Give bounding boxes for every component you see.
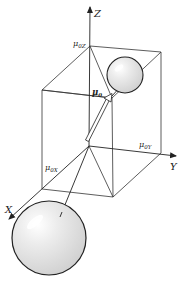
mu-y-label: μ0Y <box>139 140 153 150</box>
box-edge-bottom-right <box>113 153 161 197</box>
x-axis-label: X <box>4 204 13 215</box>
y-axis-label: Y <box>170 161 178 172</box>
z-axis-label: Z <box>93 8 102 19</box>
dipole-moment-diagram: Z Y X μ0Z μ0Y μ0X μ0 <box>0 0 184 281</box>
small-sphere <box>107 57 143 93</box>
box-edge-top-left <box>42 46 90 90</box>
box-edge-top-back <box>90 46 161 52</box>
diagonal-bottom <box>89 146 113 197</box>
mu-vector-label: μ0 <box>92 87 102 98</box>
box-edge-bottom-front <box>42 189 113 197</box>
box-edge-vert-front <box>112 98 113 197</box>
y-axis <box>89 146 176 156</box>
mu-x-label: μ0X <box>45 163 59 173</box>
z-axis <box>89 7 90 146</box>
mu-z-label: μ0Z <box>73 39 86 49</box>
large-sphere <box>12 201 86 275</box>
axes <box>9 7 176 219</box>
box-frame <box>42 46 161 197</box>
